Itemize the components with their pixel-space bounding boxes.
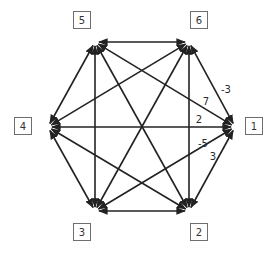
edge-4-5 (50, 46, 93, 124)
edges-layer (0, 0, 277, 254)
edge-label-6-1: -3 (221, 84, 231, 95)
node-2: 2 (190, 223, 208, 241)
node-6: 6 (190, 11, 208, 29)
edge-label-3-1: -5 (198, 138, 208, 149)
edge-label-5-1: 7 (203, 96, 209, 107)
graph-diagram: 123456 -372-53 (0, 0, 277, 254)
node-1: 1 (245, 117, 263, 135)
edge-label-2-1: 3 (210, 151, 216, 162)
node-4: 4 (14, 117, 32, 135)
edge-label-4-1: 2 (196, 114, 202, 125)
node-5: 5 (73, 11, 91, 29)
edge-3-4 (50, 130, 93, 207)
node-3: 3 (73, 223, 91, 241)
